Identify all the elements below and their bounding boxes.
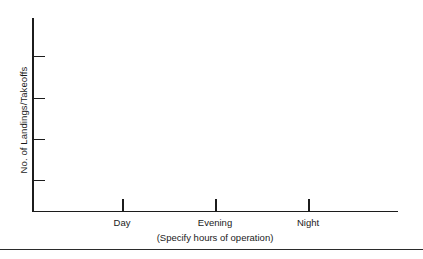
- y-axis-tick: [33, 180, 45, 182]
- y-axis-line: [32, 18, 34, 212]
- y-axis-tick: [33, 56, 45, 58]
- x-axis-tick-label-evening: Evening: [198, 217, 232, 229]
- y-axis-label: No. of Landings/Takeoffs: [17, 23, 31, 217]
- x-axis-tick: [308, 199, 310, 211]
- x-axis-tick-label-day: Day: [114, 217, 131, 229]
- y-axis-tick: [33, 98, 45, 100]
- x-axis-sublabel: (Specify hours of operation): [157, 232, 274, 244]
- footer-divider: [0, 249, 423, 250]
- x-axis-tick-label-night: Night: [297, 217, 319, 229]
- chart-figure: No. of Landings/Takeoffs Day Evening Nig…: [0, 0, 423, 259]
- x-axis-tick: [122, 199, 124, 211]
- x-axis-tick: [215, 199, 217, 211]
- y-axis-tick: [33, 139, 45, 141]
